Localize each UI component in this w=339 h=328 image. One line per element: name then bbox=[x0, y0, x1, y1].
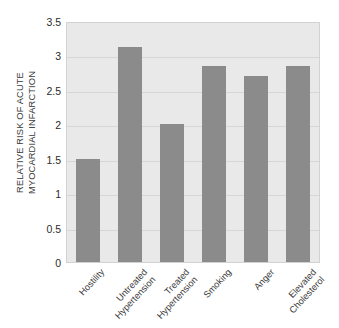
bar-series bbox=[67, 23, 319, 262]
y-axis-tick-label: 2.5 bbox=[46, 85, 61, 97]
x-axis-tick-label: ElevatedCholesterol bbox=[279, 267, 327, 316]
x-axis-tick-label: Anger bbox=[252, 267, 277, 292]
x-axis-tick-label-line: Anger bbox=[252, 267, 277, 292]
x-axis-tick-label: Smoking bbox=[202, 267, 234, 301]
bar bbox=[76, 159, 100, 262]
y-axis-title-line-1: RELATIVE RISK OF ACUTE bbox=[16, 71, 28, 194]
y-axis-title: RELATIVE RISK OF ACUTE MYOCARDIAL INFARC… bbox=[10, 0, 44, 265]
bar bbox=[286, 66, 310, 262]
x-axis-tick-label: Hostility bbox=[77, 267, 107, 298]
bar bbox=[202, 66, 226, 262]
y-axis-tick-label: 0 bbox=[55, 257, 61, 269]
y-axis-title-line-2: MYOCARDIAL INFARCTION bbox=[27, 71, 39, 194]
y-axis-tick-label: 0.5 bbox=[46, 223, 61, 235]
x-axis-tick-label: UntreatedHypertension bbox=[105, 267, 158, 322]
bar bbox=[118, 47, 142, 262]
bar bbox=[244, 76, 268, 262]
y-axis-tick-label: 3.5 bbox=[46, 16, 61, 28]
x-axis-tick-label-line: Smoking bbox=[202, 267, 234, 301]
bar-chart-figure: RELATIVE RISK OF ACUTE MYOCARDIAL INFARC… bbox=[0, 0, 339, 328]
y-axis-tick-labels: 00.511.522.533.5 bbox=[40, 0, 64, 280]
x-axis-tick-labels: HostilityUntreatedHypertensionTreatedHyp… bbox=[66, 264, 320, 328]
y-axis-tick-label: 1 bbox=[55, 188, 61, 200]
y-axis-tick-label: 3 bbox=[55, 50, 61, 62]
x-axis-tick-label-line: Hostility bbox=[77, 267, 107, 298]
y-axis-tick-label: 1.5 bbox=[46, 154, 61, 166]
y-axis-tick-label: 2 bbox=[55, 119, 61, 131]
bar bbox=[160, 124, 184, 262]
plot-area bbox=[66, 22, 320, 263]
x-axis-tick-label: TreatedHypertension bbox=[147, 267, 200, 322]
